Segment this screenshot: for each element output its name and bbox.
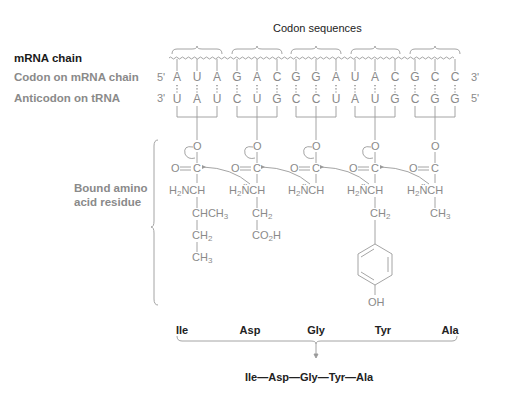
mrna-wavy-line: [169, 57, 454, 59]
trna-base: G: [450, 92, 459, 106]
trna-base: G: [272, 92, 281, 106]
carbonyl-carbon-2: C: [253, 162, 261, 174]
trna-base: C: [411, 92, 420, 106]
mrna-base: G: [291, 70, 300, 84]
trna-base: U: [332, 92, 341, 106]
carbonyl-oxygen-3: O: [290, 162, 299, 174]
tyr-side-chain-ch2: CH2: [370, 207, 390, 219]
amino-group-asp: H2N̈CH: [229, 184, 265, 196]
ala-side-chain-ch3: CH3: [430, 207, 450, 219]
tyr-hydroxyl: OH: [368, 296, 385, 308]
amino-acid-label: Ala: [441, 324, 458, 336]
carbonyl-carbon-4: C: [371, 162, 379, 174]
ile-side-chain-chch3: CHCH3: [192, 207, 228, 219]
asp-side-chain-ch2: CH2: [252, 207, 272, 219]
ester-oxygen-2: O: [253, 140, 262, 152]
amino-acid-label: Asp: [240, 324, 261, 336]
trna-base: U: [213, 92, 222, 106]
mrna-base: A: [213, 70, 221, 84]
amino-group-tyr: H2N̈CH: [347, 184, 383, 196]
mrna-base: G: [311, 70, 320, 84]
amino-acid-brace: [177, 336, 457, 344]
codon-brace-5: [410, 46, 460, 54]
trna-base: U: [371, 92, 380, 106]
mrna-base: C: [451, 70, 460, 84]
mrna-base: U: [193, 70, 202, 84]
curved-arrows-oxygen: [185, 147, 373, 159]
carbonyl-oxygen-4: O: [349, 162, 358, 174]
amino-acid-label: Gly: [307, 324, 325, 336]
asp-side-chain-co2h: CO2H: [252, 229, 281, 241]
ester-oxygen-4: O: [371, 140, 380, 152]
mrna-base: G: [410, 70, 419, 84]
codon-brace-1: [172, 46, 222, 54]
trna-base: G: [430, 92, 439, 106]
trna-base: C: [292, 92, 301, 106]
mrna-base: A: [332, 70, 340, 84]
mrna-base: C: [391, 70, 400, 84]
carbonyl-oxygen-2: O: [231, 162, 240, 174]
trna-base: C: [233, 92, 242, 106]
mrna-base: A: [253, 70, 261, 84]
codon-brace-2: [232, 46, 282, 54]
mrna-base: G: [232, 70, 241, 84]
mrna-base: A: [371, 70, 379, 84]
carbonyl-carbon-5: C: [431, 162, 439, 174]
ester-oxygen-3: O: [312, 140, 321, 152]
carbonyl-carbon-1: C: [193, 162, 201, 174]
phenol-ring: [358, 244, 392, 295]
amino-group-gly: H2N̈CH: [288, 184, 324, 196]
ester-oxygen-1: O: [193, 140, 202, 152]
carbonyl-oxygen-1: O: [171, 162, 180, 174]
amino-acid-label: Ile: [176, 324, 188, 336]
amino-group-ile: H2NCH: [169, 184, 205, 196]
residue-brace: [151, 140, 158, 305]
trna-base: A: [351, 92, 359, 106]
mrna-base: U: [351, 70, 360, 84]
codon-brace-3: [291, 46, 341, 54]
trna-base: U: [253, 92, 262, 106]
ile-side-chain-ch2: CH2: [192, 229, 212, 241]
carbonyl-carbon-3: C: [312, 162, 320, 174]
trna-base: G: [390, 92, 399, 106]
carbonyl-oxygen-5: O: [409, 162, 418, 174]
peptide-chain: Ile—Asp—Gly—Tyr—Ala: [245, 371, 373, 383]
diagram-lines: [0, 0, 505, 401]
amino-acid-label: Tyr: [375, 324, 391, 336]
ester-oxygen-5: O: [431, 140, 440, 152]
mrna-base: C: [431, 70, 440, 84]
trna-base: C: [312, 92, 321, 106]
amino-group-ala: H2N̈CH: [407, 184, 443, 196]
mrna-base: A: [173, 70, 181, 84]
mrna-base: C: [273, 70, 282, 84]
codon-brace-4: [351, 46, 400, 54]
trna-base: A: [193, 92, 201, 106]
side-chain-bonds: [197, 197, 435, 252]
trna-brackets: [177, 106, 455, 140]
ile-side-chain-ch3: CH3: [192, 251, 212, 263]
trna-base: U: [173, 92, 182, 106]
